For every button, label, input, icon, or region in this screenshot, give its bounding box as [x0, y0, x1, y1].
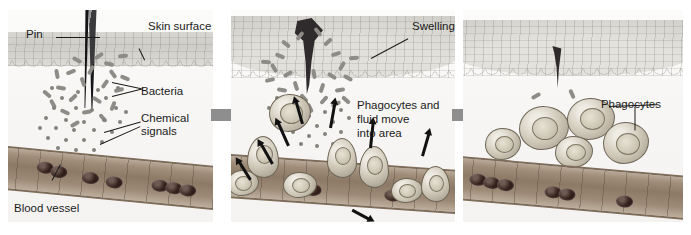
bacterium [261, 60, 271, 65]
label-bacteria: Bacteria [141, 85, 183, 98]
phagocyte-nucleus [429, 175, 444, 192]
phagocyte-nucleus [532, 117, 558, 140]
chemical-signal-dot [64, 138, 68, 142]
figure-root: Pin Skin surface Bacteria Chemical signa… [0, 0, 691, 235]
label-chemical-signals-line2: signals [141, 125, 177, 138]
chemical-signal-dot [92, 128, 96, 132]
chemical-signal-dot [56, 146, 60, 150]
label-blood-vessel: Blood vessel [14, 202, 79, 215]
chemical-signal-dot [82, 120, 86, 124]
chemical-signal-dot [90, 108, 94, 112]
chemical-signal-dot [124, 110, 128, 114]
phagocyte-nucleus [292, 178, 310, 193]
label-pin: Pin [26, 28, 43, 41]
chemical-signal-dot [64, 118, 68, 122]
phagocyte-nucleus [566, 144, 586, 161]
chemical-signal-dot [315, 124, 319, 128]
chemical-signal-dot [54, 126, 58, 130]
label-phagocytes-move-line2: fluid move [357, 113, 409, 126]
chemical-signal-dot [76, 90, 80, 94]
panel-3 [463, 10, 683, 222]
chemical-signal-dot [118, 120, 122, 124]
label-chemical-signals-line1: Chemical [141, 112, 189, 125]
label-phagocytes-move-line1: Phagocytes and [357, 99, 439, 112]
leader-line-pin [56, 37, 100, 38]
phagocyte-nucleus [399, 184, 416, 198]
chemical-signal-dot [74, 148, 78, 152]
chemical-signal-dot [72, 128, 76, 132]
chemical-signal-dot [339, 130, 343, 134]
chemical-signal-dot [74, 106, 78, 110]
chemical-signal-dot [299, 142, 303, 146]
chemical-signal-dot [38, 126, 42, 130]
chemical-signal-dot [347, 116, 351, 120]
chemical-signal-dot [114, 106, 118, 110]
chemical-signal-dot [104, 96, 108, 100]
label-phagocytes: Phagocytes [601, 98, 661, 111]
chemical-signal-dot [102, 118, 106, 122]
label-swelling: Swelling [412, 20, 455, 33]
panel-2 [231, 10, 455, 222]
chemical-signal-dot [44, 116, 48, 120]
chemical-signal-dot [339, 108, 343, 112]
phagocyte-emigrating [421, 166, 450, 202]
chemical-signal-dot [46, 136, 50, 140]
chemical-signal-dot [92, 148, 96, 152]
chemical-signal-dot [96, 88, 100, 92]
chemical-signal-dot [50, 86, 54, 90]
chemical-signal-dot [323, 132, 327, 136]
chemical-signal-dot [82, 138, 86, 142]
phagocyte-nucleus [580, 108, 605, 130]
label-skin-surface: Skin surface [148, 20, 211, 33]
label-phagocytes-move-line3: into area [357, 127, 402, 140]
chemical-signal-dot [52, 106, 56, 110]
chemical-signal-dot [60, 96, 64, 100]
phagocyte-nucleus [495, 136, 514, 153]
chemical-signal-dot [323, 110, 327, 114]
phagocyte-nucleus [335, 147, 351, 165]
phagocyte-nucleus [367, 156, 383, 175]
chemical-signal-dot [307, 134, 311, 138]
phagocyte-nucleus [616, 133, 640, 155]
step-arrow-shaft [211, 109, 233, 121]
chemical-signal-dot [315, 144, 319, 148]
chemical-signal-dot [116, 86, 120, 90]
